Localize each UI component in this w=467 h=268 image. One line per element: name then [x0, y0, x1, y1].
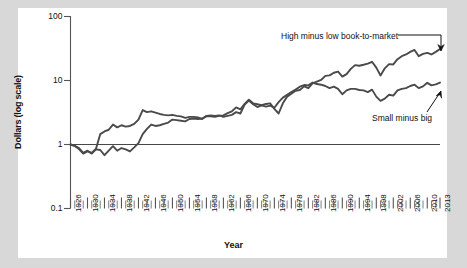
x-tick-label: 1998: [379, 194, 388, 212]
x-tick-label: 2010: [430, 194, 439, 212]
x-tick-label: 1970: [261, 194, 270, 212]
annotation-high-minus-low: High minus low book-to-market: [281, 31, 398, 41]
series-paths: [71, 49, 441, 155]
x-tick-label: 2006: [413, 194, 422, 212]
x-tick-label: 1942: [142, 194, 151, 212]
x-tick-label: 1930: [91, 194, 100, 212]
x-tick-label: 1962: [227, 194, 236, 212]
x-tick-label: 1954: [193, 194, 202, 212]
x-tick-label: 1990: [346, 194, 355, 212]
x-tick-label: 1934: [108, 194, 117, 212]
series-line: [71, 49, 441, 155]
x-tick-label: 1994: [363, 194, 372, 212]
x-tick-label: 2002: [396, 194, 405, 212]
x-tick-label: 1938: [125, 194, 134, 212]
x-tick-label: 1982: [312, 194, 321, 212]
x-tick-label: 1986: [329, 194, 338, 212]
x-tick-label: 2013: [443, 194, 452, 212]
y-tick-label: 0.1: [31, 203, 63, 213]
x-tick-label: 1946: [159, 194, 168, 212]
x-tick-label: 1978: [295, 194, 304, 212]
x-tick-label: 1958: [210, 194, 219, 212]
axis-lines: [64, 16, 71, 209]
x-tick-label: 1966: [244, 194, 253, 212]
chart-figure: Dollars (log scale) Year 1001010.1 19261…: [0, 0, 467, 268]
annotation-small-minus-big: Small minus big: [372, 113, 432, 123]
x-tick-label: 1950: [176, 194, 185, 212]
y-tick-label: 10: [31, 75, 63, 85]
x-tick-label: 1974: [278, 194, 287, 212]
y-axis-title-text: Dollars (log scale): [13, 52, 23, 172]
y-axis-title: Dollars (log scale): [13, 0, 23, 52]
y-tick-label: 100: [31, 11, 63, 21]
y-tick-label: 1: [31, 139, 63, 149]
x-tick-label: 1926: [74, 194, 83, 212]
x-axis-title: Year: [0, 240, 467, 250]
annotation-leader-lines: [398, 35, 444, 112]
